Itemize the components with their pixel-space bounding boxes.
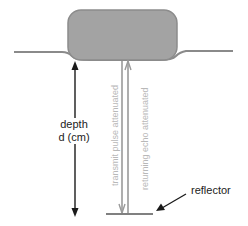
transducer-block-icon <box>68 10 177 60</box>
transmit-pulse-label: transmit pulse attenuated <box>110 85 120 186</box>
returning-echo-label: returning echo attenuated <box>140 87 150 190</box>
depth-label-line2: d (cm) <box>52 131 96 144</box>
arrow-pointer-icon <box>156 194 186 211</box>
returning-echo-arrow <box>125 61 131 213</box>
reflector-label: reflector <box>191 184 231 197</box>
depth-label-line1: depth <box>52 118 96 131</box>
depth-label: depth d (cm) <box>52 118 96 144</box>
